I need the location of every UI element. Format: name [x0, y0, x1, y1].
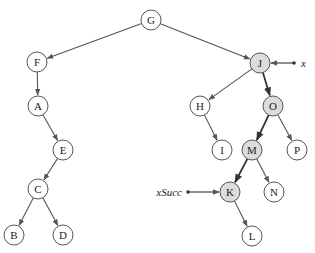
node-label: G	[147, 14, 155, 26]
tree-node-n: N	[264, 182, 284, 202]
node-label: L	[249, 230, 256, 242]
edge-o-p	[278, 115, 292, 141]
edge-e-c	[44, 158, 58, 179]
edge-m-k	[235, 159, 247, 182]
pointer-xsucc: xSucc	[155, 186, 219, 198]
pointer-x: x	[271, 57, 306, 69]
tree-node-i: I	[212, 140, 232, 160]
node-label: O	[269, 100, 277, 112]
edge-c-d	[43, 198, 58, 226]
tree-node-l: L	[242, 226, 262, 246]
edge-m-n	[257, 159, 269, 182]
tree-node-h: H	[190, 96, 210, 116]
node-label: A	[34, 100, 42, 112]
edge-h-i	[204, 115, 217, 140]
tree-node-b: B	[4, 225, 24, 245]
node-label: E	[60, 144, 67, 156]
bst-diagram: xxSucc GFAECBDJHOIMPKNL	[0, 0, 315, 253]
edge-g-j	[160, 24, 249, 59]
pointer-dot	[292, 61, 296, 65]
tree-node-d: D	[53, 225, 73, 245]
tree-node-c: C	[28, 179, 48, 199]
edge-o-m	[257, 115, 269, 140]
pointer-label: xSucc	[155, 186, 182, 198]
pointer-label: x	[300, 57, 306, 69]
node-label: C	[34, 183, 41, 195]
edge-c-b	[19, 198, 33, 225]
tree-node-a: A	[28, 96, 48, 116]
node-label: I	[220, 144, 224, 156]
node-label: K	[226, 186, 234, 198]
node-label: H	[196, 100, 204, 112]
node-label: B	[10, 229, 17, 241]
node-label: M	[247, 144, 257, 156]
tree-node-o: O	[263, 96, 283, 116]
pointer-dot	[186, 190, 190, 194]
edge-g-f	[47, 23, 141, 58]
edge-f-a	[37, 72, 38, 95]
edge-k-l	[234, 201, 247, 226]
edge-j-h	[209, 69, 252, 100]
node-label: D	[59, 229, 67, 241]
tree-node-j: J	[250, 53, 270, 73]
edge-a-e	[43, 115, 58, 141]
node-label: J	[258, 57, 263, 69]
tree-node-f: F	[27, 52, 47, 72]
tree-node-e: E	[53, 140, 73, 160]
tree-node-k: K	[220, 182, 240, 202]
node-label: F	[34, 56, 40, 68]
pointer-annotations: xxSucc	[155, 57, 306, 198]
tree-node-p: P	[287, 140, 307, 160]
node-label: P	[294, 144, 300, 156]
edge-j-o	[263, 73, 270, 96]
tree-node-m: M	[242, 140, 262, 160]
node-label: N	[270, 186, 278, 198]
tree-node-g: G	[141, 10, 161, 30]
